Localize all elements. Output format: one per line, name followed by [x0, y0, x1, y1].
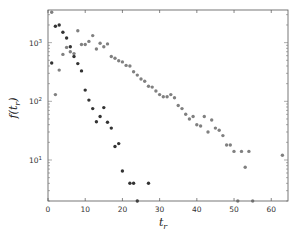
y-tick-label: 102: [29, 96, 42, 106]
data-point-gray: [232, 150, 235, 153]
data-point-gray: [180, 107, 183, 110]
data-point-dark: [69, 45, 72, 48]
data-point-gray: [210, 118, 213, 121]
data-point-gray: [69, 50, 72, 53]
data-point-gray: [214, 126, 217, 129]
data-point-dark: [91, 107, 94, 110]
data-point-gray: [72, 52, 75, 55]
data-point-gray: [132, 70, 135, 73]
data-point-gray: [50, 11, 53, 14]
data-point-gray: [136, 73, 139, 76]
x-tick-label: 60: [266, 205, 276, 214]
data-point-gray: [162, 95, 165, 98]
data-point-gray: [165, 95, 168, 98]
data-point-dark: [65, 36, 68, 39]
data-point-gray: [184, 113, 187, 116]
data-point-gray: [143, 80, 146, 83]
x-axis-ticks: 0102030405060: [46, 10, 277, 214]
data-point-gray: [87, 40, 90, 43]
data-point-dark: [106, 121, 109, 124]
data-point-gray: [151, 85, 154, 88]
data-point-dark: [76, 62, 79, 65]
data-point-dark: [58, 23, 61, 26]
y-axis-ticks: 101102103: [29, 15, 288, 201]
data-point-dark: [102, 106, 105, 109]
plot-frame: [48, 10, 288, 201]
data-point-gray: [76, 29, 79, 32]
x-tick-label: 30: [155, 205, 165, 214]
data-point-gray: [244, 166, 247, 169]
data-point-dark: [95, 120, 98, 123]
data-point-dark: [117, 142, 120, 145]
data-point-gray: [121, 60, 124, 63]
data-point-gray: [206, 130, 209, 133]
data-point-gray: [65, 46, 68, 49]
data-point-gray: [110, 55, 113, 58]
data-point-gray: [221, 134, 224, 137]
x-tick-label: 10: [80, 205, 90, 214]
data-point-gray: [218, 129, 221, 132]
data-point-gray: [102, 45, 105, 48]
data-point-gray: [158, 93, 161, 96]
data-point-gray: [80, 43, 83, 46]
data-point-dark: [128, 182, 131, 185]
plot-points: [50, 11, 284, 203]
data-point-dark: [98, 115, 101, 118]
data-point-gray: [203, 115, 206, 118]
data-point-gray: [128, 64, 131, 67]
x-tick-label: 0: [46, 205, 51, 214]
data-point-gray: [225, 143, 228, 146]
data-point-gray: [95, 47, 98, 50]
data-point-gray: [191, 115, 194, 118]
y-axis-label: f(tr): [7, 98, 22, 120]
data-point-gray: [84, 43, 87, 46]
data-point-gray: [281, 154, 284, 157]
data-point-gray: [98, 42, 101, 45]
data-point-gray: [54, 93, 57, 96]
data-point-gray: [169, 93, 172, 96]
data-point-gray: [117, 59, 120, 62]
scatter-chart: 0102030405060 101102103 tr f(tr): [0, 0, 303, 237]
x-tick-label: 50: [229, 205, 239, 214]
x-axis-label: tr: [159, 216, 168, 231]
x-tick-label: 40: [192, 205, 202, 214]
data-point-gray: [240, 150, 243, 153]
data-point-dark: [80, 69, 83, 72]
data-point-dark: [132, 182, 135, 185]
data-point-gray: [124, 64, 127, 67]
data-point-dark: [54, 25, 57, 28]
data-point-gray: [199, 124, 202, 127]
data-point-dark: [50, 61, 53, 64]
data-point-dark: [87, 98, 90, 101]
data-point-gray: [177, 104, 180, 107]
y-tick-label: 103: [29, 38, 43, 48]
data-point-gray: [91, 34, 94, 37]
data-point-gray: [61, 53, 64, 56]
data-point-gray: [247, 150, 250, 153]
data-point-gray: [139, 77, 142, 80]
data-point-dark: [113, 145, 116, 148]
data-point-dark: [121, 169, 124, 172]
data-point-gray: [229, 143, 232, 146]
data-point-dark: [84, 88, 87, 91]
x-tick-label: 20: [118, 205, 128, 214]
data-point-gray: [173, 96, 176, 99]
data-point-gray: [147, 85, 150, 88]
data-point-gray: [58, 68, 61, 71]
data-point-gray: [188, 117, 191, 120]
data-point-gray: [154, 89, 157, 92]
data-point-gray: [113, 57, 116, 60]
data-point-dark: [61, 31, 64, 34]
data-point-dark: [110, 126, 113, 129]
data-point-gray: [106, 42, 109, 45]
data-point-dark: [72, 55, 75, 58]
y-tick-label: 101: [29, 155, 42, 165]
data-point-gray: [195, 123, 198, 126]
data-point-dark: [147, 182, 150, 185]
